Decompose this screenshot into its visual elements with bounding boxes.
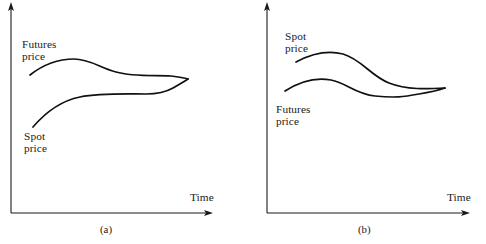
panel-caption-a: (a)	[100, 223, 112, 235]
panel-b: Spot price Futures price Time (b)	[243, 0, 486, 244]
panel-a: Futures price Spot price Time (a)	[0, 0, 243, 244]
panel-a-graphic	[0, 0, 243, 244]
spot-price-label-a: Spot price	[24, 130, 47, 155]
panel-caption-b: (b)	[358, 223, 371, 235]
futures-price-label-b: Futures price	[276, 103, 311, 128]
spot-price-label-b: Spot price	[285, 30, 308, 55]
figure-container: Futures price Spot price Time (a) Spot p…	[0, 0, 486, 244]
spot-price-curve-b	[296, 52, 445, 88]
x-axis-label-b: Time	[447, 191, 471, 203]
futures-price-label-a: Futures price	[22, 38, 57, 63]
spot-price-curve-a	[33, 79, 188, 127]
x-axis-label-a: Time	[190, 191, 214, 203]
